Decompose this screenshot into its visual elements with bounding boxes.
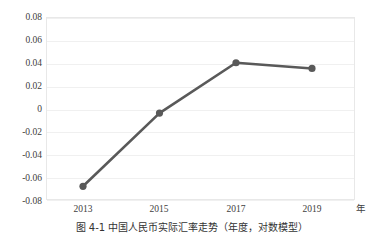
x-tick-label: 2017 bbox=[213, 203, 259, 216]
y-tick-label: 0 bbox=[0, 104, 42, 114]
gridline bbox=[47, 64, 354, 65]
y-tick-label: 0.08 bbox=[0, 12, 42, 22]
x-axis-unit-label: 年 bbox=[356, 202, 366, 216]
x-tick-label: 2013 bbox=[60, 203, 106, 216]
figure-container: 0.08 0.06 0.04 0.02 0 -0.02 -0.04 -0.06 … bbox=[0, 0, 384, 234]
gridline bbox=[47, 110, 354, 111]
plot-area bbox=[46, 17, 355, 200]
gridline bbox=[47, 87, 354, 88]
gridline bbox=[47, 178, 354, 179]
y-tick-label: -0.06 bbox=[0, 173, 42, 183]
y-tick-label: -0.02 bbox=[0, 127, 42, 137]
figure-caption: 图 4-1 中国人民币实际汇率走势（年度，对数模型） bbox=[0, 221, 384, 234]
gridline bbox=[47, 155, 354, 156]
x-tick-label: 2015 bbox=[136, 203, 182, 216]
x-axis: 2013 2015 2017 2019 bbox=[0, 203, 384, 219]
y-tick-label: 0.06 bbox=[0, 35, 42, 45]
gridline bbox=[47, 18, 354, 19]
x-tick-label: 2019 bbox=[289, 203, 335, 216]
y-tick-label: 0.04 bbox=[0, 58, 42, 68]
gridline bbox=[47, 132, 354, 133]
y-axis: 0.08 0.06 0.04 0.02 0 -0.02 -0.04 -0.06 … bbox=[0, 0, 42, 234]
y-tick-label: 0.02 bbox=[0, 81, 42, 91]
y-tick-label: -0.04 bbox=[0, 150, 42, 160]
gridline bbox=[47, 200, 354, 201]
gridline bbox=[47, 41, 354, 42]
